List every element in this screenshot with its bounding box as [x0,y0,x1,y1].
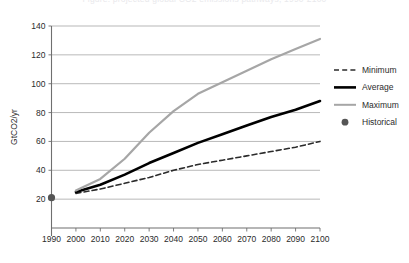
x-tick-label-2050: 2050 [188,234,207,244]
y-tick-label-60: 60 [36,136,46,146]
legend-label-historical: Historical [362,117,397,127]
legend-label-average: Average [362,82,394,92]
y-axis-tick-labels: 20406080100120140 [31,21,45,204]
gridlines-group [52,26,321,199]
data-points-group [48,194,55,201]
x-tick-label-2010: 2010 [91,234,110,244]
chart-figure: Figure: projected global CO2 emissions p… [0,0,409,263]
y-tick-label-40: 40 [36,165,46,175]
x-tick-label-2040: 2040 [164,234,183,244]
x-tick-label-2030: 2030 [140,234,159,244]
x-tick-label-2090: 2090 [286,234,305,244]
x-axis-tick-labels: 1990200020102020203020402050206020702080… [42,234,330,244]
legend-label-maximum: Maximum [362,100,399,110]
y-tick-label-20: 20 [36,194,46,204]
line-chart-canvas: 20406080100120140 1990200020102020203020… [0,0,409,263]
x-tick-label-1990: 1990 [42,234,61,244]
chart-legend: MinimumAverageMaximumHistorical [334,65,399,127]
data-point-historical [48,194,55,201]
x-tick-label-2080: 2080 [262,234,281,244]
series-line-maximum [76,39,320,191]
series-line-average [76,101,320,192]
legend-label-minimum: Minimum [362,65,396,75]
y-tick-label-140: 140 [31,21,45,31]
y-axis-title: GtCO2/yr [9,109,19,145]
x-tick-label-2100: 2100 [311,234,330,244]
legend-marker-historical [342,119,349,126]
series-line-minimum [76,141,320,193]
y-tick-label-80: 80 [36,108,46,118]
x-tick-label-2020: 2020 [115,234,134,244]
x-tick-label-2070: 2070 [237,234,256,244]
y-tick-label-120: 120 [31,50,45,60]
x-tick-label-2060: 2060 [213,234,232,244]
y-tick-label-100: 100 [31,79,45,89]
x-tick-label-2000: 2000 [66,234,85,244]
